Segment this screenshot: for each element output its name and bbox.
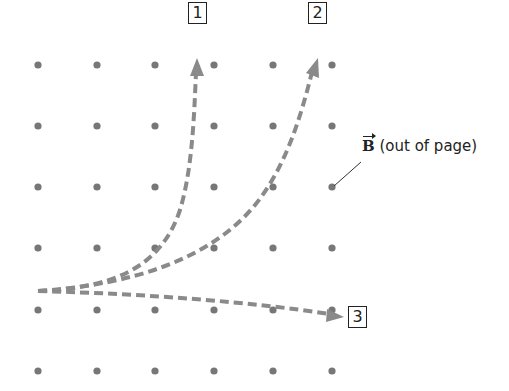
field-label-leader-line [334, 162, 361, 186]
trajectory-path-3 [38, 291, 330, 314]
arrowhead-2-icon [306, 58, 319, 78]
path-label-2: 2 [308, 2, 327, 24]
magnetic-field-label: B (out of page) [362, 137, 477, 155]
path-label-1: 1 [188, 2, 207, 24]
arrowhead-1-icon [190, 58, 204, 76]
diagram-canvas [0, 0, 509, 391]
trajectory-path-2 [38, 72, 312, 291]
magnetic-field-dot-grid [34, 61, 335, 374]
field-direction-text: (out of page) [375, 137, 478, 155]
path-label-3: 3 [348, 306, 367, 328]
trajectory-path-1 [38, 72, 196, 291]
b-vector-symbol: B [362, 137, 375, 155]
